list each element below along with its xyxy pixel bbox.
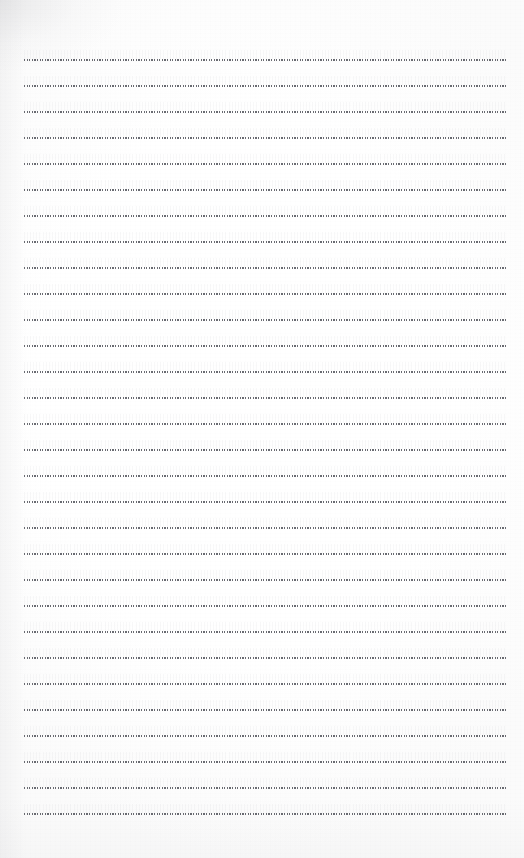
rule-line bbox=[24, 631, 508, 633]
rule-line bbox=[24, 423, 508, 425]
rule-line-halo bbox=[24, 102, 508, 111]
rule-line-dots bbox=[24, 189, 508, 191]
rule-line-dots bbox=[24, 579, 508, 581]
rule-line-halo bbox=[24, 518, 508, 527]
rule-line-dots bbox=[24, 319, 508, 321]
rule-line-dots bbox=[24, 267, 508, 269]
rule-line-dots bbox=[24, 787, 508, 789]
rule-line-dots bbox=[24, 449, 508, 451]
rule-line-dots bbox=[24, 137, 508, 139]
rule-line-halo bbox=[24, 700, 508, 709]
lined-paper-page bbox=[0, 0, 524, 858]
rule-line-halo bbox=[24, 76, 508, 85]
rule-line bbox=[24, 371, 508, 373]
rule-line bbox=[24, 657, 508, 659]
rule-line-dots bbox=[24, 657, 508, 659]
rule-line-dots bbox=[24, 397, 508, 399]
rule-line bbox=[24, 189, 508, 191]
rule-line-halo bbox=[24, 570, 508, 579]
rule-line-halo bbox=[24, 310, 508, 319]
rule-line-halo bbox=[24, 284, 508, 293]
rule-line-halo bbox=[24, 206, 508, 215]
rule-line-halo bbox=[24, 258, 508, 267]
rule-line bbox=[24, 501, 508, 503]
rule-line bbox=[24, 267, 508, 269]
rule-line-halo bbox=[24, 726, 508, 735]
rule-line-halo bbox=[24, 804, 508, 813]
rule-line-halo bbox=[24, 128, 508, 137]
rule-line-dots bbox=[24, 735, 508, 737]
rule-line bbox=[24, 449, 508, 451]
rule-line-halo bbox=[24, 440, 508, 449]
rule-line-dots bbox=[24, 371, 508, 373]
rule-line-dots bbox=[24, 553, 508, 555]
rule-line-halo bbox=[24, 414, 508, 423]
rule-line bbox=[24, 553, 508, 555]
rule-line bbox=[24, 241, 508, 243]
ruled-lines-group bbox=[0, 0, 524, 858]
rule-line bbox=[24, 761, 508, 763]
rule-line-dots bbox=[24, 709, 508, 711]
rule-line bbox=[24, 293, 508, 295]
rule-line bbox=[24, 813, 508, 815]
rule-line-halo bbox=[24, 648, 508, 657]
rule-line bbox=[24, 85, 508, 87]
rule-line-dots bbox=[24, 59, 508, 61]
rule-line bbox=[24, 111, 508, 113]
rule-line bbox=[24, 137, 508, 139]
rule-line-halo bbox=[24, 180, 508, 189]
rule-line bbox=[24, 579, 508, 581]
rule-line-halo bbox=[24, 154, 508, 163]
rule-line-dots bbox=[24, 475, 508, 477]
rule-line-dots bbox=[24, 215, 508, 217]
rule-line bbox=[24, 709, 508, 711]
rule-line-dots bbox=[24, 241, 508, 243]
rule-line bbox=[24, 683, 508, 685]
rule-line-dots bbox=[24, 293, 508, 295]
rule-line-halo bbox=[24, 622, 508, 631]
rule-line-halo bbox=[24, 336, 508, 345]
rule-line bbox=[24, 735, 508, 737]
rule-line bbox=[24, 397, 508, 399]
rule-line-dots bbox=[24, 605, 508, 607]
rule-line-dots bbox=[24, 761, 508, 763]
rule-line-halo bbox=[24, 596, 508, 605]
rule-line-halo bbox=[24, 362, 508, 371]
rule-line bbox=[24, 527, 508, 529]
rule-line-halo bbox=[24, 752, 508, 761]
rule-line-dots bbox=[24, 501, 508, 503]
rule-line-dots bbox=[24, 813, 508, 815]
rule-line bbox=[24, 345, 508, 347]
rule-line-halo bbox=[24, 232, 508, 241]
rule-line-dots bbox=[24, 683, 508, 685]
rule-line bbox=[24, 319, 508, 321]
rule-line-dots bbox=[24, 631, 508, 633]
rule-line bbox=[24, 605, 508, 607]
rule-line bbox=[24, 787, 508, 789]
rule-line-dots bbox=[24, 345, 508, 347]
rule-line-halo bbox=[24, 544, 508, 553]
rule-line bbox=[24, 215, 508, 217]
rule-line-dots bbox=[24, 163, 508, 165]
rule-line-halo bbox=[24, 492, 508, 501]
rule-line bbox=[24, 475, 508, 477]
rule-line-halo bbox=[24, 50, 508, 59]
rule-line bbox=[24, 163, 508, 165]
rule-line-halo bbox=[24, 778, 508, 787]
rule-line-halo bbox=[24, 388, 508, 397]
rule-line-dots bbox=[24, 527, 508, 529]
rule-line bbox=[24, 59, 508, 61]
rule-line-halo bbox=[24, 674, 508, 683]
rule-line-dots bbox=[24, 85, 508, 87]
rule-line-halo bbox=[24, 466, 508, 475]
rule-line-dots bbox=[24, 111, 508, 113]
rule-line-dots bbox=[24, 423, 508, 425]
